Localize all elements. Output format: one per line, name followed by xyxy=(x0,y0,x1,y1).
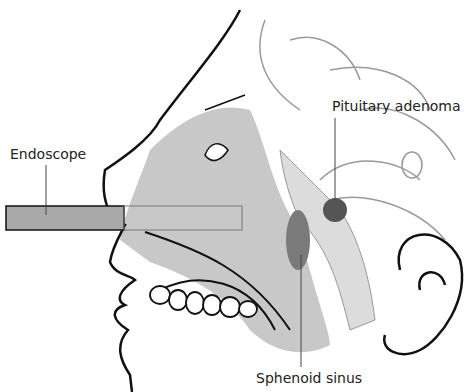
pituitary-adenoma-label: Pituitary adenoma xyxy=(332,98,461,114)
diagram: Endoscope Pituitary adenoma Sphenoid sin… xyxy=(0,0,471,392)
head-cross-section-illustration xyxy=(0,0,471,392)
sphenoid-sinus-shape xyxy=(286,210,310,270)
sphenoid-sinus-label: Sphenoid sinus xyxy=(256,370,362,386)
endoscope-label: Endoscope xyxy=(10,146,86,162)
endoscope-shaft xyxy=(6,206,124,230)
brain-folds xyxy=(260,20,455,240)
pituitary-adenoma-shape xyxy=(323,198,347,222)
ear xyxy=(384,235,462,354)
